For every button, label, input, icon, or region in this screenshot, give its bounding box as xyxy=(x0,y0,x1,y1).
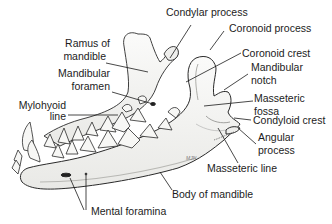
label-mylohyoid-line-line2: line xyxy=(4,110,66,122)
label-condyloid-crest: Condyloid crest xyxy=(253,114,325,126)
label-condylar-process: Condylar process xyxy=(166,6,248,18)
label-body-of-mandible: Body of mandible xyxy=(172,188,253,200)
label-masseteric-fossa-line1: Masseteric xyxy=(254,92,305,104)
label-mandibular-notch-line1: Mandibular xyxy=(251,61,303,73)
label-mental-foramina: Mental foramina xyxy=(91,205,166,217)
label-coronoid-crest: Coronoid crest xyxy=(242,47,310,59)
label-ramus-line1: Ramus of xyxy=(40,37,110,49)
label-coronoid-process: Coronoid process xyxy=(229,22,311,34)
label-mandibular-foramen-line1: Mandibular xyxy=(40,67,110,79)
label-angular-process-line2: process xyxy=(258,144,295,156)
label-mandibular-foramen-line2: foramen xyxy=(40,80,110,92)
artist-signature: MJN xyxy=(186,155,196,161)
figure-caption xyxy=(36,218,296,224)
label-ramus-line2: mandible xyxy=(40,50,106,62)
label-angular-process-line1: Angular xyxy=(258,131,294,143)
label-mandibular-notch-line2: notch xyxy=(251,74,277,86)
label-masseteric-line: Masseteric line xyxy=(207,162,277,174)
